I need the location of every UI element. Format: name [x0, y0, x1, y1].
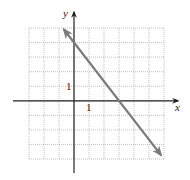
axes: [13, 12, 178, 173]
plotted-line: [64, 29, 161, 155]
x-axis-label: x: [174, 101, 180, 113]
y-axis-label: y: [62, 7, 68, 19]
x-tick-label-1: 1: [86, 101, 92, 113]
y-tick-label-1: 1: [66, 80, 72, 92]
grid-lines: [29, 28, 164, 159]
coordinate-plane: y x 1 1: [0, 0, 190, 180]
